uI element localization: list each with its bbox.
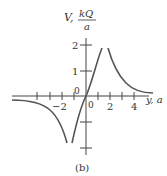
y-tick-label-1: 1 <box>72 66 78 77</box>
x-tick-label-0: 0 <box>88 100 94 110</box>
curve-right-branch <box>108 48 153 93</box>
y-axis-label-denominator: a <box>84 21 90 32</box>
x-tick-label-2: 2 <box>107 101 113 112</box>
x-axis-label: y, a <box>145 94 163 105</box>
x-tick-label-4: 4 <box>131 101 137 112</box>
x-tick-label-neg2: −2 <box>52 101 67 112</box>
y-axis-label-prefix: V, <box>64 11 74 24</box>
y-axis-label-numerator: kQ <box>79 8 93 19</box>
chart: V, kQ a 2 1 0 −2 0 2 4 y, a (b) <box>0 0 167 176</box>
figure-caption: (b) <box>75 162 89 173</box>
y-tick-label-2: 2 <box>72 40 78 51</box>
y-tick-label-0: 0 <box>74 86 80 96</box>
